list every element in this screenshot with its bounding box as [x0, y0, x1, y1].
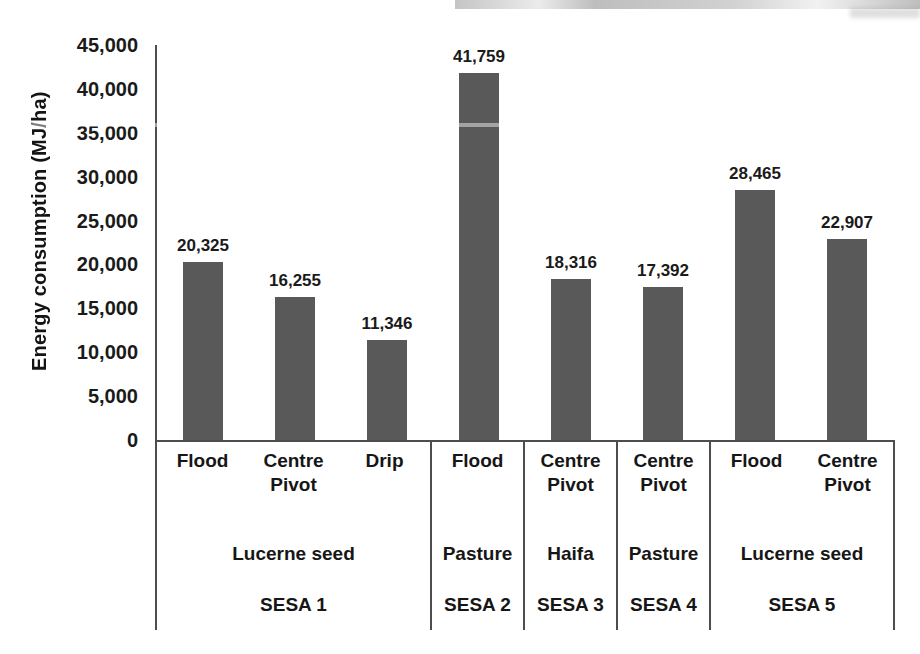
irrigation-method-label: Flood	[157, 449, 248, 528]
x-axis-group: FloodCentre PivotDripLucerne seedSESA 1	[155, 442, 430, 630]
bar-slot: 18,316	[525, 45, 617, 440]
irrigation-method-row: Centre Pivot	[525, 442, 616, 528]
irrigation-method-label: Centre Pivot	[618, 449, 709, 528]
y-axis-tick-label: 0	[127, 429, 138, 452]
bar-slot: 17,392	[617, 45, 709, 440]
y-axis-title: Energy consumption (MJ/ha)	[26, 45, 52, 417]
site-label: SESA 5	[711, 580, 893, 630]
bar	[275, 297, 315, 440]
y-axis-tick-label: 15,000	[77, 297, 138, 320]
y-axis-tick-label: 45,000	[77, 34, 138, 57]
irrigation-method-label: Drip	[339, 449, 430, 528]
bar-slot: 22,907	[801, 45, 893, 440]
x-axis-group: Centre PivotHaifaSESA 3	[523, 442, 616, 630]
site-label: SESA 2	[432, 580, 523, 630]
x-axis-group: Centre PivotPastureSESA 4	[616, 442, 709, 630]
x-axis-group: FloodCentre PivotLucerne seedSESA 5	[709, 442, 895, 630]
bar-value-label: 22,907	[821, 213, 873, 233]
crop-label: Lucerne seed	[711, 528, 893, 580]
bar-value-label: 20,325	[177, 236, 229, 256]
bar	[551, 279, 591, 440]
bar-value-label: 16,255	[269, 271, 321, 291]
bar-value-label: 17,392	[637, 261, 689, 281]
y-axis-tick-label: 25,000	[77, 209, 138, 232]
bar-slot: 28,465	[709, 45, 801, 440]
bar	[827, 239, 867, 440]
irrigation-method-label: Centre Pivot	[248, 449, 339, 528]
x-axis-category-table: FloodCentre PivotDripLucerne seedSESA 1F…	[155, 440, 895, 630]
y-axis-tick-label: 20,000	[77, 253, 138, 276]
bar	[183, 262, 223, 440]
bar-slot: 11,346	[341, 45, 433, 440]
bar-chart: Energy consumption (MJ/ha) 05,00010,0001…	[0, 0, 920, 654]
site-label: SESA 4	[618, 580, 709, 630]
crop-label: Lucerne seed	[157, 528, 430, 580]
site-label: SESA 3	[525, 580, 616, 630]
bar-value-label: 18,316	[545, 253, 597, 273]
irrigation-method-label: Centre Pivot	[802, 449, 893, 528]
x-axis-group: FloodPastureSESA 2	[430, 442, 523, 630]
irrigation-method-label: Centre Pivot	[525, 449, 616, 528]
bar	[643, 287, 683, 440]
y-axis-tick-label: 10,000	[77, 341, 138, 364]
y-axis-tick-label: 30,000	[77, 165, 138, 188]
irrigation-method-row: FloodCentre PivotDrip	[157, 442, 430, 528]
bar-slot: 20,325	[157, 45, 249, 440]
scan-smear-corner-artifact	[850, 8, 920, 18]
bar	[367, 340, 407, 440]
irrigation-method-row: FloodCentre Pivot	[711, 442, 893, 528]
plot-area: 20,32516,25511,34641,75918,31617,39228,4…	[155, 45, 893, 440]
irrigation-method-label: Flood	[711, 449, 802, 528]
bar-value-label: 11,346	[361, 314, 412, 334]
bar-value-label: 41,759	[453, 47, 505, 67]
irrigation-method-label: Flood	[432, 449, 523, 528]
bar	[459, 73, 499, 440]
bar-slot: 41,759	[433, 45, 525, 440]
crop-label: Haifa	[525, 528, 616, 580]
crop-label: Pasture	[618, 528, 709, 580]
site-label: SESA 1	[157, 580, 430, 630]
irrigation-method-row: Centre Pivot	[618, 442, 709, 528]
bar-slot: 16,255	[249, 45, 341, 440]
bar	[735, 190, 775, 440]
crop-label: Pasture	[432, 528, 523, 580]
bar-value-label: 28,465	[729, 164, 781, 184]
y-axis-tick-label: 40,000	[77, 77, 138, 100]
y-axis-tick-label: 5,000	[88, 385, 138, 408]
irrigation-method-row: Flood	[432, 442, 523, 528]
y-axis-tick-label: 35,000	[77, 121, 138, 144]
